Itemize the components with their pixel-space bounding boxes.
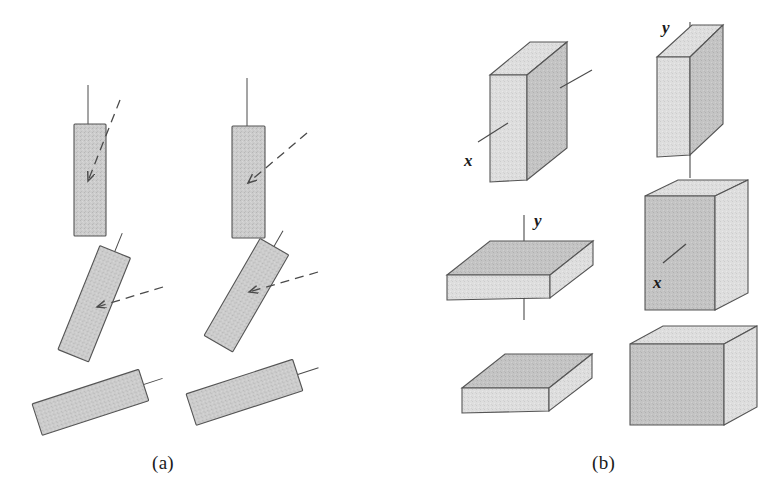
block-slab-flat-left: y	[447, 211, 593, 320]
bar-flat-left	[32, 363, 168, 435]
block-side-face	[715, 180, 748, 310]
block-box-wide-bottom	[630, 326, 757, 425]
block-slab-flat-bottom	[462, 354, 592, 413]
block-side-face	[724, 326, 757, 425]
block-box-upright-right: x	[645, 180, 748, 310]
bar-shape	[186, 359, 303, 425]
block-front-face	[630, 344, 724, 425]
block-front-face	[462, 388, 549, 413]
axis-label-y: y	[532, 211, 542, 230]
bar-upright-right	[232, 78, 307, 238]
figure-canvas: x y y	[0, 0, 780, 500]
panel-b-caption: (b)	[592, 452, 615, 474]
panel-a-caption: (a)	[152, 452, 174, 474]
block-front-face	[447, 275, 550, 300]
bar-shape	[204, 238, 289, 351]
axis-label-x: x	[463, 151, 473, 170]
block-side-face	[490, 75, 527, 182]
block-plate-vertical-right: y	[657, 18, 723, 178]
block-side-face	[657, 57, 690, 157]
panel-b-group: x y y	[447, 18, 757, 425]
bar-shape	[74, 124, 106, 236]
bar-upright-left	[74, 85, 120, 236]
bar-shape	[32, 369, 149, 435]
axis-label-x: x	[652, 273, 662, 292]
block-front-face	[645, 196, 715, 310]
bar-tilted-right	[204, 223, 298, 352]
block-plate-vertical-left: x	[463, 42, 592, 182]
bar-tilted-left	[58, 227, 138, 362]
bar-shape	[58, 246, 131, 362]
panel-a-group	[32, 78, 324, 435]
bar-flat-right	[186, 353, 324, 426]
figure-svg: x y y	[0, 0, 780, 500]
axis-label-y: y	[660, 18, 670, 37]
